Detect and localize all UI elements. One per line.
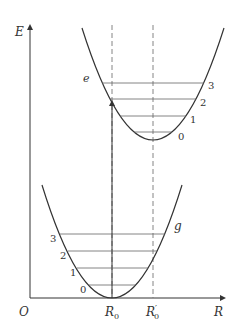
ground-level-2-label: 2 [60,250,66,261]
ground-level-0-label: 0 [80,284,86,295]
excited-level-1-label: 1 [190,114,196,125]
r0-label: R0 [104,305,119,321]
excited-curve-label: e [83,72,90,85]
excited-level-0-label: 0 [178,131,184,142]
ground-level-3-label: 3 [50,233,56,244]
excited-level-2-label: 2 [200,97,206,108]
r0-prime-label: R′0 [145,304,159,321]
potential-energy-diagram: E O R 0 1 2 3 g 0 1 2 3 e R0 R′0 [0,0,240,333]
ground-level-1-label: 1 [70,267,76,278]
ground-curve-label: g [174,219,182,233]
y-axis-label: E [14,25,24,39]
x-axis-label: R [213,305,223,319]
origin-label: O [19,305,29,319]
excited-level-3-label: 3 [208,80,214,91]
